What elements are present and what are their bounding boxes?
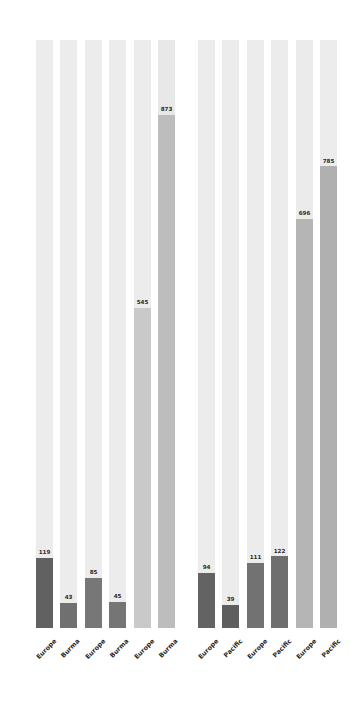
- bar-value-label: 45: [114, 594, 122, 600]
- bar-track: [60, 40, 77, 628]
- bar-slot[interactable]: 43: [60, 40, 77, 628]
- bar-value-label: 122: [274, 549, 285, 555]
- bar-slot[interactable]: 785: [320, 40, 337, 628]
- bar-value-label: 873: [161, 107, 172, 113]
- x-tick-label: Pacific: [272, 638, 293, 659]
- bar-slot[interactable]: 696: [296, 40, 313, 628]
- bar-slot[interactable]: 545: [134, 40, 151, 628]
- bar-slot[interactable]: 122: [271, 40, 288, 628]
- bar-slot[interactable]: 119: [36, 40, 53, 628]
- bar-fill[interactable]: [271, 556, 288, 628]
- bar-slot[interactable]: 39: [222, 40, 239, 628]
- bar-slot[interactable]: 45: [109, 40, 126, 628]
- bar-value-label: 43: [65, 595, 73, 601]
- bar-fill[interactable]: [158, 115, 175, 628]
- x-tick-label: Europe: [246, 638, 268, 660]
- bar-fill[interactable]: [247, 563, 264, 628]
- x-tick-label: Europe: [35, 638, 57, 660]
- bar-value-label: 696: [299, 211, 310, 217]
- bar-track: [109, 40, 126, 628]
- bar-track: [85, 40, 102, 628]
- bar-fill[interactable]: [109, 602, 126, 628]
- bar-value-label: 94: [203, 565, 211, 571]
- bar-track: [36, 40, 53, 628]
- bar-fill[interactable]: [36, 558, 53, 628]
- bar-track: [222, 40, 239, 628]
- bar-fill[interactable]: [60, 603, 77, 628]
- bar-track: [198, 40, 215, 628]
- bar-value-label: 785: [323, 159, 334, 165]
- x-tick-label: Burma: [109, 638, 130, 659]
- bar-value-label: 111: [250, 555, 261, 561]
- x-tick-label: Europe: [197, 638, 219, 660]
- x-tick-label: Pacific: [223, 638, 244, 659]
- bar-slot[interactable]: 85: [85, 40, 102, 628]
- bar-fill[interactable]: [222, 605, 239, 628]
- bar-value-label: 39: [227, 597, 235, 603]
- bar-slot[interactable]: 873: [158, 40, 175, 628]
- x-tick-label: Pacific: [321, 638, 342, 659]
- bar-value-label: 119: [39, 550, 50, 556]
- bar-value-label: 85: [90, 570, 98, 576]
- bar-track: [247, 40, 264, 628]
- x-tick-label: Burma: [60, 638, 81, 659]
- bar-fill[interactable]: [320, 166, 337, 628]
- bar-slot[interactable]: 94: [198, 40, 215, 628]
- bar-fill[interactable]: [134, 308, 151, 628]
- x-tick-label: Europe: [133, 638, 155, 660]
- bar-fill[interactable]: [198, 573, 215, 628]
- x-tick-label: Burma: [158, 638, 179, 659]
- x-tick-label: Europe: [295, 638, 317, 660]
- bar-slot[interactable]: 111: [247, 40, 264, 628]
- bar-value-label: 545: [137, 300, 148, 306]
- bar-fill[interactable]: [85, 578, 102, 628]
- x-tick-label: Europe: [84, 638, 106, 660]
- bar-track: [271, 40, 288, 628]
- bar-chart: 119Europe43Burma85Europe45Burma545Europe…: [0, 0, 357, 716]
- plot-area: 119Europe43Burma85Europe45Burma545Europe…: [0, 0, 357, 716]
- bar-fill[interactable]: [296, 219, 313, 628]
